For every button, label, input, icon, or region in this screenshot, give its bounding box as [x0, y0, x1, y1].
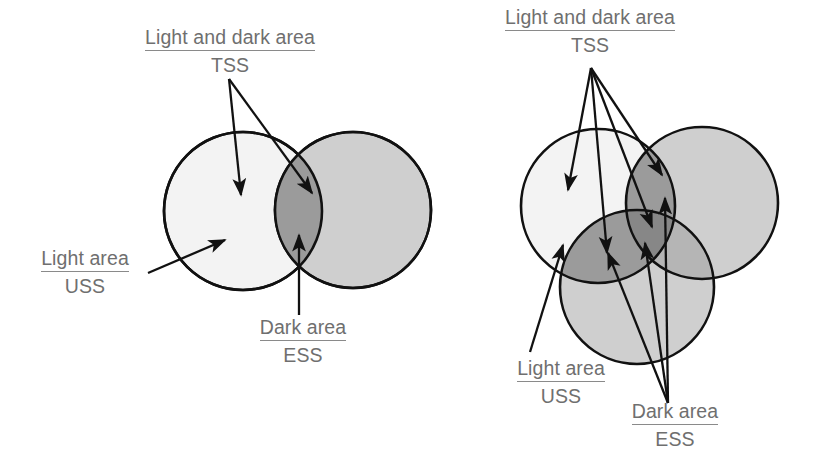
left-label-tss-line2: TSS [118, 54, 342, 77]
left-label-ess-line1: Dark area [260, 316, 347, 341]
right-label-tss-line1: Light and dark area [505, 6, 675, 31]
left-label-tss: Light and dark area TSS [118, 26, 342, 77]
right-label-uss-line1: Light area [517, 357, 605, 382]
diagram-canvas: Light and dark area TSS Light area USS D… [0, 0, 821, 471]
right-label-ess-line2: ESS [600, 428, 750, 451]
right-label-tss: Light and dark area TSS [478, 6, 702, 57]
left-label-ess: Dark area ESS [228, 316, 378, 367]
right-label-tss-line2: TSS [478, 34, 702, 57]
left-label-uss-line1: Light area [41, 247, 129, 272]
right-label-ess-line1: Dark area [632, 400, 719, 425]
three-set-venn-group [521, 68, 778, 403]
left-label-uss-line2: USS [10, 275, 160, 298]
left-label-ess-line2: ESS [228, 344, 378, 367]
two-set-venn-group [148, 79, 431, 315]
right-label-ess: Dark area ESS [600, 400, 750, 451]
left-label-tss-line1: Light and dark area [145, 26, 315, 51]
left-label-uss: Light area USS [10, 247, 160, 298]
